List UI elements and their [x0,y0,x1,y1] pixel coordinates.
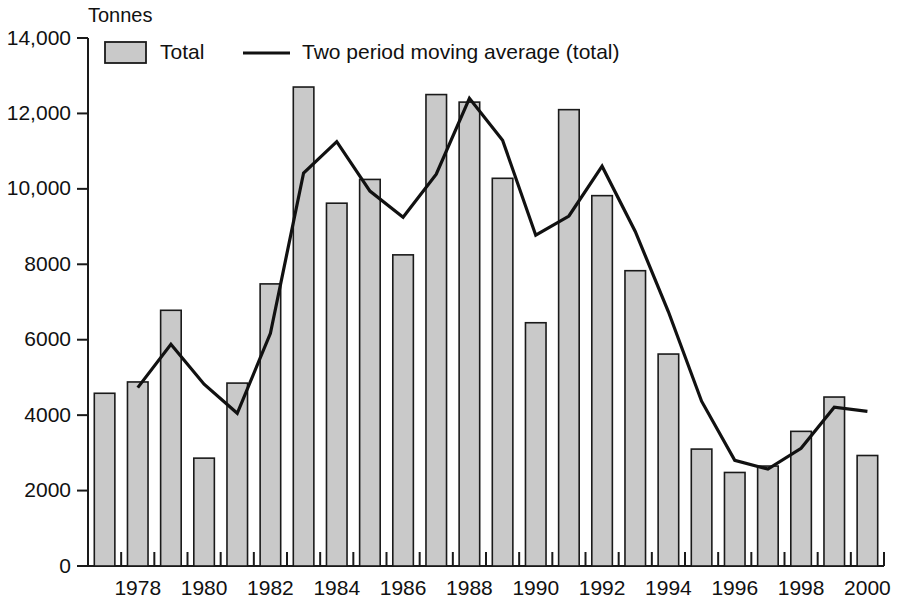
x-tick-label: 1984 [313,576,360,599]
x-tick-label: 1996 [711,576,758,599]
bar [194,458,215,566]
y-axis-unit-label: Tonnes [88,4,153,26]
y-tick-label: 14,000 [7,26,71,49]
x-tick-label: 1992 [579,576,626,599]
bar [625,271,646,566]
y-axis-ticks: 0200040006000800010,00012,00014,000 [7,26,88,577]
bar [426,95,447,566]
x-tick-label: 1998 [778,576,825,599]
x-tick-label: 1986 [380,576,427,599]
bar-series-total [94,87,877,566]
x-tick-label: 1978 [114,576,161,599]
bar [492,178,513,566]
x-tick-label: 1994 [645,576,692,599]
y-tick-label: 2000 [24,478,71,501]
bar [592,196,613,566]
bar-line-chart: 0200040006000800010,00012,00014,000 1978… [0,0,899,610]
bar [824,397,845,566]
bar [94,393,115,566]
bar [857,456,878,567]
bar [525,323,546,566]
bar [459,102,480,566]
chart-container: 0200040006000800010,00012,00014,000 1978… [0,0,899,610]
bar [127,382,148,566]
bar [360,179,381,566]
y-tick-label: 12,000 [7,101,71,124]
y-tick-label: 6000 [24,327,71,350]
x-tick-label: 1980 [181,576,228,599]
bar [658,354,679,566]
y-tick-label: 8000 [24,252,71,275]
legend-label-total: Total [160,40,204,63]
x-tick-label: 1982 [247,576,294,599]
legend-label-moving-average: Two period moving average (total) [302,40,620,63]
bar [326,203,347,566]
x-tick-label: 1990 [512,576,559,599]
y-tick-label: 4000 [24,403,71,426]
bar [758,466,779,566]
x-tick-label: 1988 [446,576,493,599]
legend-swatch-total [105,42,146,63]
bar [393,255,414,566]
y-tick-label: 10,000 [7,176,71,199]
chart-legend: Total Two period moving average (total) [105,40,620,63]
bar [293,87,314,566]
y-tick-label: 0 [59,554,71,577]
bar [559,110,580,566]
bar [161,310,182,566]
x-tick-label: 2000 [844,576,891,599]
bar [724,472,745,566]
bar [691,449,712,566]
